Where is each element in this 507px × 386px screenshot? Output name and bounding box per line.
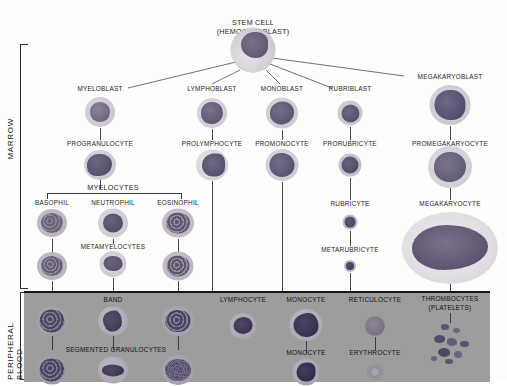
cell-promegakaryocyte <box>428 146 472 188</box>
label-rubricyte: RUBRICYTE <box>330 200 369 208</box>
marrow-bracket <box>20 44 28 289</box>
cell-neutrophil-myelocyte <box>98 209 128 238</box>
cell-myeloblast <box>85 97 115 127</box>
cell-band-neutrophil <box>98 307 128 336</box>
label-myelocytes: MYELOCYTES <box>87 184 139 192</box>
cell-segmented-eosinophil <box>162 355 194 385</box>
cell-eosinophil-myelocyte <box>162 209 194 238</box>
label-monocyte-mature: MONOCYTE <box>287 349 326 357</box>
cell-basophil-myelocyte <box>37 209 67 237</box>
cell-lymphocyte <box>230 313 257 339</box>
cell-prorubricyte <box>339 154 362 177</box>
cell-progranulocyte <box>84 150 116 180</box>
cell-monocyte-mature <box>293 359 320 386</box>
cell-segmented-basophil <box>37 356 68 385</box>
label-prorubricyte: PRORUBRICYTE <box>323 140 377 148</box>
peripheral-blood-panel: BAND SEGMENTED GRANULOCYTES LYMPHOCYTE <box>24 291 490 382</box>
cell-monoblast <box>266 98 298 129</box>
label-monocyte-blood: MONOCYTE <box>287 296 326 304</box>
cell-promonocyte <box>266 149 299 181</box>
label-eosinophil: EOSINOPHIL <box>157 199 199 207</box>
cell-neutrophil-metamyelocyte <box>100 251 127 277</box>
label-neutrophil: NEUTROPHIL <box>91 199 135 207</box>
cell-basophil-blood <box>37 307 68 336</box>
label-progranulocyte: PROGRANULOCYTE <box>67 140 133 148</box>
label-lymphocyte: LYMPHOCYTE <box>220 296 266 304</box>
cell-basophil-metamyelocyte <box>37 252 67 280</box>
cell-segmented-neutrophil <box>98 357 128 384</box>
cell-prolymphocyte <box>196 150 228 181</box>
cell-eosinophil-blood <box>162 306 194 336</box>
label-band: BAND <box>104 296 123 304</box>
cell-metarubricyte <box>344 260 356 272</box>
label-segmented-granulocytes: SEGMENTED GRANULOCYTES <box>66 346 167 354</box>
stem-cell-label: STEM CELL <box>232 19 274 27</box>
cell-reticulocyte <box>366 317 385 336</box>
cell-megakaryocyte <box>402 212 498 284</box>
label-megakaryoblast: MEGAKARYOBLAST <box>418 73 483 81</box>
label-metamyelocytes: METAMYELOCYTES <box>81 243 145 251</box>
label-prolymphocyte: PROLYMPHOCYTE <box>182 140 243 148</box>
label-erythrocyte: ERYTHROCYTE <box>350 349 401 357</box>
label-basophil: BASOPHIL <box>35 199 69 207</box>
cell-stem-cell <box>231 28 275 72</box>
cell-megakaryoblast <box>430 85 471 125</box>
label-metarubricyte: METARUBRICYTE <box>321 246 378 254</box>
compartment-label-marrow: MARROW <box>6 118 15 160</box>
cell-lymphoblast <box>197 98 227 128</box>
cell-rubricyte <box>343 215 358 230</box>
label-thrombocytes: THROMBOCYTES (PLATELETS) <box>422 295 479 312</box>
label-megakaryocyte: MEGAKARYOCYTE <box>419 200 480 208</box>
label-reticulocyte: RETICULOCYTE <box>349 296 401 304</box>
label-promonocyte: PROMONOCYTE <box>255 140 309 148</box>
cell-rubriblast <box>338 101 363 126</box>
label-lymphoblast: LYMPHOBLAST <box>187 85 237 93</box>
label-myeloblast: MYELOBLAST <box>77 85 122 93</box>
label-rubriblast: RUBRIBLAST <box>329 85 372 93</box>
cell-monocyte <box>290 309 323 341</box>
label-monoblast: MONOBLAST <box>261 85 303 93</box>
cell-erythrocyte <box>368 365 383 380</box>
cell-eosinophil-metamyelocyte <box>163 252 194 281</box>
cell-thrombocytes-cluster <box>424 323 479 371</box>
